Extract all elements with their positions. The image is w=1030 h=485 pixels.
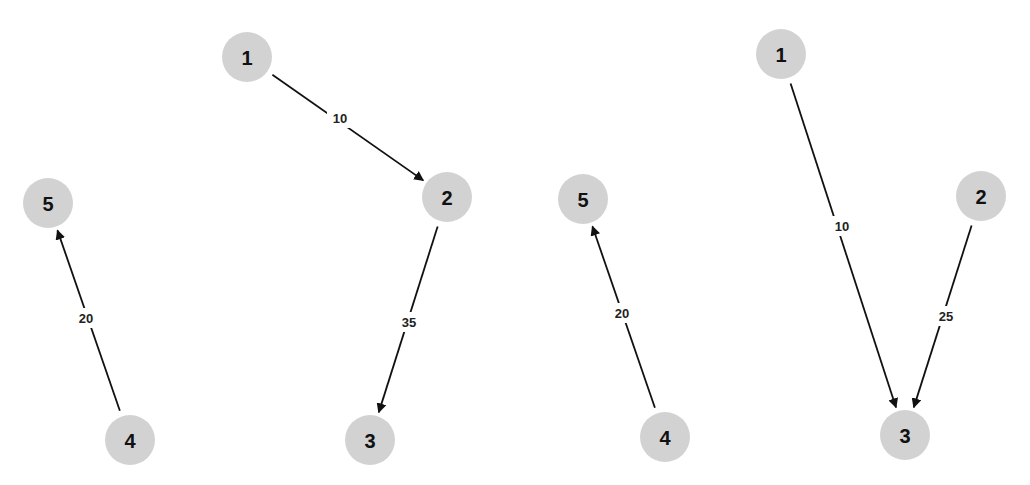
right-graph-edge-weight-4-5: 20: [609, 303, 635, 323]
left-graph-edge-weight-4-5: 20: [73, 308, 99, 328]
node-label: 2: [441, 187, 452, 209]
left-graph-edge-weight-1-2: 10: [327, 108, 353, 128]
node-label: 5: [577, 189, 588, 211]
right-graph-node-2: 2: [956, 171, 1006, 221]
edge-weight-label: 20: [615, 306, 629, 321]
left-graph-node-4: 4: [105, 415, 155, 465]
right-graph-node-4: 4: [640, 412, 690, 462]
left-graph-node-1: 1: [222, 32, 272, 82]
graph-canvas: 103520102520 1234512345: [0, 0, 1030, 485]
right-graph-node-5: 5: [558, 174, 608, 224]
right-graph-node-1: 1: [756, 29, 806, 79]
edge-weight-label: 35: [402, 315, 416, 330]
node-label: 3: [899, 425, 910, 447]
edge-weight-label: 10: [333, 111, 347, 126]
left-graph-node-3: 3: [345, 415, 395, 465]
edge-arrow-icon: [791, 83, 896, 407]
left-graph-node-2: 2: [422, 172, 472, 222]
left-graph-edge-weight-2-3: 35: [396, 312, 422, 332]
node-label: 5: [42, 193, 53, 215]
node-label: 4: [124, 430, 136, 452]
right-graph-edge-1-to-3: [791, 83, 896, 407]
node-label: 3: [364, 430, 375, 452]
edge-weight-label: 20: [79, 311, 93, 326]
edge-weight-label: 10: [835, 219, 849, 234]
node-label: 1: [775, 44, 786, 66]
right-graph-edge-weight-1-3: 10: [829, 216, 855, 236]
node-label: 4: [659, 427, 671, 449]
right-graph-edge-weight-2-3: 25: [933, 306, 959, 326]
edge-weight-label: 25: [939, 309, 953, 324]
left-graph-node-5: 5: [23, 178, 73, 228]
right-graph-node-3: 3: [880, 410, 930, 460]
node-label: 1: [241, 47, 252, 69]
node-label: 2: [975, 186, 986, 208]
